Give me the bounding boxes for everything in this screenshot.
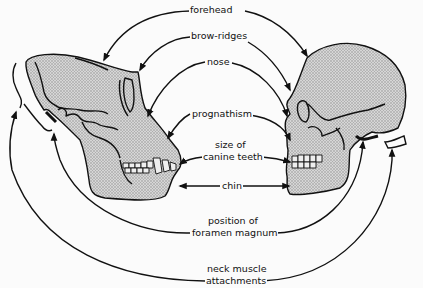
label-nose: nose [206, 56, 231, 68]
human-cranium-outline [285, 43, 406, 194]
label-canine-line2: canine teeth [202, 151, 264, 163]
label-prognathism: prognathism [191, 108, 253, 120]
label-foramen-line2: foramen magnum [191, 227, 278, 239]
arrow-brow-human [248, 42, 290, 90]
label-canine-line1: size of [214, 139, 247, 151]
label-forehead: forehead [189, 4, 233, 16]
ape-cranium-outline [26, 54, 181, 200]
label-neck-line2: attachments [205, 275, 267, 287]
label-chin: chin [221, 180, 243, 192]
ape-skull [26, 54, 181, 200]
arrow-forehead-human [245, 11, 307, 56]
human-skull [285, 43, 406, 194]
human-neck-attachments [356, 136, 406, 148]
arrow-forehead-ape [104, 11, 190, 60]
arrow-canine-ape [180, 157, 203, 164]
skull-comparison-diagram [0, 0, 423, 288]
arrow-prognathism-human [250, 115, 290, 140]
arrow-prognathism-ape [168, 114, 190, 138]
label-foramen-line1: position of [207, 215, 259, 227]
arrow-canine-human [262, 157, 290, 162]
arrow-brow-ape [140, 37, 190, 70]
label-neck-line1: neck muscle [206, 263, 268, 275]
label-brow-ridges: brow-ridges [190, 30, 248, 42]
